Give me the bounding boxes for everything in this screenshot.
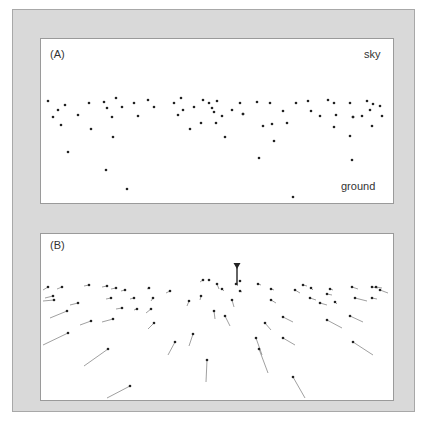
motion-vector-line (355, 298, 367, 301)
motion-vector-line (189, 334, 193, 346)
sample-point (333, 126, 336, 129)
motion-vector-line (327, 320, 342, 328)
sample-point (111, 116, 114, 119)
motion-vector-point (258, 348, 261, 351)
motion-vector-point (379, 289, 382, 292)
sample-point (189, 128, 192, 131)
motion-vector-point (47, 286, 50, 289)
sample-point (216, 100, 219, 103)
sample-point (126, 188, 129, 191)
motion-vector-point (292, 376, 295, 379)
motion-vector-line (225, 316, 230, 326)
sample-point (319, 115, 322, 118)
motion-vector-line (50, 311, 67, 318)
motion-vector-point (216, 283, 219, 286)
motion-vector-point (188, 300, 191, 303)
sample-point (193, 106, 196, 109)
motion-vector-line (259, 349, 268, 373)
sample-point (349, 135, 352, 138)
sample-point (106, 107, 109, 110)
motion-vector-point (208, 279, 211, 282)
sample-point (335, 114, 338, 117)
motion-vector-point (282, 316, 285, 319)
sample-point (208, 102, 211, 105)
sample-point (242, 113, 245, 116)
motion-vector-point (153, 322, 156, 325)
motion-vector-line (80, 321, 91, 325)
motion-vector-point (110, 297, 113, 300)
motion-vector-point (319, 302, 322, 305)
motion-vector-line (283, 317, 293, 322)
sample-point (147, 99, 150, 102)
sample-point (47, 100, 50, 103)
motion-vector-point (152, 297, 155, 300)
sample-point (121, 106, 124, 109)
motion-vector-line (256, 338, 262, 355)
motion-vector-point (326, 293, 329, 296)
sample-point (295, 102, 298, 105)
motion-vector-point (221, 288, 224, 291)
sample-point (173, 102, 176, 105)
sample-point (221, 115, 224, 118)
sample-point (103, 101, 106, 104)
motion-vector-point (334, 301, 337, 304)
motion-vector-line (293, 377, 305, 398)
motion-vector-line (43, 333, 68, 345)
motion-vector-point (349, 315, 352, 318)
sample-point (88, 102, 91, 105)
plot-overlay (0, 0, 429, 439)
sample-point (57, 109, 60, 112)
motion-vector-point (174, 341, 177, 344)
sample-point (67, 151, 70, 154)
motion-vector-point (88, 284, 91, 287)
sample-point (115, 97, 118, 100)
sample-point (286, 122, 289, 125)
sample-point (177, 114, 180, 117)
motion-vector-point (148, 287, 151, 290)
motion-vector-point (67, 332, 70, 335)
motion-vector-point (264, 322, 267, 325)
motion-vector-point (90, 320, 93, 323)
motion-vector-point (124, 289, 127, 292)
motion-vector-point (52, 295, 55, 298)
sample-point (369, 109, 372, 112)
sample-point (269, 102, 272, 105)
sample-point (366, 100, 369, 103)
motion-vector-point (169, 290, 172, 293)
sample-point (379, 105, 382, 108)
foe-marker-triangle-icon (234, 263, 241, 269)
motion-vector-point (294, 289, 297, 292)
sample-point (182, 109, 185, 112)
motion-vector-point (257, 283, 260, 286)
sample-point (213, 111, 216, 114)
sample-point (239, 102, 242, 105)
sample-point (371, 125, 374, 128)
motion-vector-point (270, 288, 273, 291)
sample-point (262, 125, 265, 128)
motion-vector-point (326, 319, 329, 322)
sample-point (333, 102, 336, 105)
motion-vector-point (371, 297, 374, 300)
motion-vector-point (192, 333, 195, 336)
sample-point (351, 159, 354, 162)
sample-point (52, 116, 55, 119)
motion-vector-point (375, 286, 378, 289)
sample-point (310, 110, 313, 113)
motion-vector-point (239, 290, 242, 293)
motion-vector-point (53, 299, 56, 302)
motion-vector-point (282, 337, 285, 340)
motion-vector-line (265, 323, 271, 330)
motion-vector-point (354, 297, 357, 300)
sample-point (273, 140, 276, 143)
motion-vector-point (121, 307, 124, 310)
motion-vector-point (77, 302, 80, 305)
motion-vector-point (206, 359, 209, 362)
motion-vector-line (206, 360, 207, 382)
motion-vector-line (107, 386, 130, 398)
motion-vector-point (371, 286, 374, 289)
sample-point (224, 136, 227, 139)
motion-vector-point (115, 287, 118, 290)
sample-point (215, 122, 218, 125)
motion-vector-point (106, 285, 109, 288)
sample-point (258, 157, 261, 160)
